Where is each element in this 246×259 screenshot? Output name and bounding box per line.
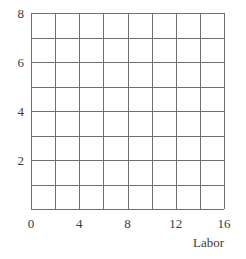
y-tick-label-8: 8: [0, 7, 24, 20]
y-tick-label-4: 4: [0, 105, 24, 118]
x-tick-label-12: 12: [169, 217, 182, 230]
x-tick-label-0: 0: [28, 217, 35, 230]
x-axis-title: Labor: [0, 236, 224, 249]
y-tick-label-6: 6: [0, 56, 24, 69]
plot-grid-svg: [0, 0, 246, 259]
x-tick-label-16: 16: [218, 217, 231, 230]
chart-container: 8 6 4 2 0 4 8 12 16 Labor: [0, 0, 246, 259]
x-tick-label-8: 8: [124, 217, 131, 230]
y-tick-label-2: 2: [0, 154, 24, 167]
x-tick-label-4: 4: [76, 217, 83, 230]
